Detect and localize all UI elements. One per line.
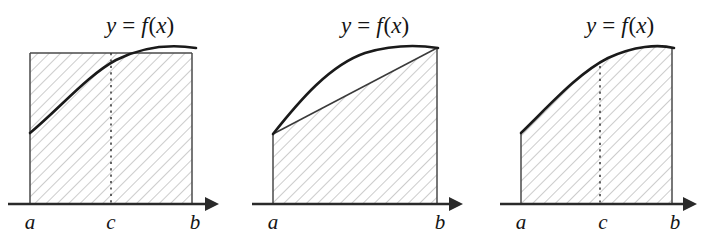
function-label: y=f(x)	[104, 13, 174, 38]
axis-label-c: c	[598, 210, 608, 234]
axis-label-b: b	[435, 210, 446, 234]
panel-middle-trapezoid-approximation: y=f(x) a b	[236, 0, 472, 251]
function-label-y: y	[339, 13, 352, 38]
function-label-y: y	[104, 13, 117, 38]
function-label: y=f(x)	[584, 13, 654, 38]
function-label-close-paren: )	[646, 13, 654, 38]
function-label-x: x	[155, 13, 167, 38]
axis-label-a: a	[25, 210, 36, 234]
x-axis-arrowhead	[683, 197, 697, 211]
function-label-x: x	[390, 13, 402, 38]
axis-label-a: a	[268, 210, 279, 234]
function-label-close-paren: )	[401, 13, 409, 38]
panel-right-exact-area: y=f(x) a c b	[472, 0, 708, 251]
axis-label-b: b	[670, 210, 681, 234]
function-label-open-paren: (	[629, 13, 637, 38]
function-label-y: y	[584, 13, 597, 38]
axis-label-c: c	[106, 210, 116, 234]
function-label-open-paren: (	[149, 13, 157, 38]
function-label-close-paren: )	[166, 13, 174, 38]
function-label-x: x	[635, 13, 647, 38]
function-label-equals: =	[122, 13, 135, 38]
function-label-open-paren: (	[384, 13, 392, 38]
axis-label-b: b	[190, 210, 201, 234]
function-label: y=f(x)	[339, 13, 409, 38]
shaded-region-trapezoid	[273, 48, 437, 204]
function-label-equals: =	[357, 13, 370, 38]
riemann-area-figure: y=f(x) a c b	[0, 0, 708, 251]
shaded-region-under-curve	[521, 46, 672, 204]
x-axis-arrowhead	[205, 197, 219, 211]
function-label-equals: =	[602, 13, 615, 38]
axis-label-a: a	[516, 210, 527, 234]
panel-left-rectangle-approximation: y=f(x) a c b	[0, 0, 236, 251]
x-axis-arrowhead	[449, 197, 463, 211]
